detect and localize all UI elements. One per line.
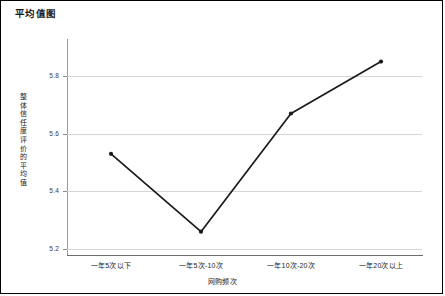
y-tick-label-5-2: 5.2 <box>31 245 59 252</box>
y-tick-mark-5-4 <box>63 191 67 192</box>
x-axis-title: 网购频次 <box>1 276 444 286</box>
x-tick-label-0: 一年5次以下 <box>91 260 131 270</box>
y-tick-label-5-8: 5.8 <box>31 72 59 79</box>
gridline-5-6 <box>67 134 422 135</box>
x-tick-label-2: 一年10次-20次 <box>267 260 315 270</box>
y-tick-label-5-4: 5.4 <box>31 187 59 194</box>
y-tick-mark-5-6 <box>63 134 67 135</box>
x-tick-label-1: 一年5次-10次 <box>179 260 223 270</box>
gridline-5-4 <box>67 191 422 192</box>
x-axis-line <box>67 255 423 256</box>
y-axis-title: 整体信任度评价的平均值 <box>17 93 30 188</box>
chart-title: 平均值图 <box>15 6 57 20</box>
plot-area <box>67 41 422 253</box>
y-tick-label-5-6: 5.6 <box>31 130 59 137</box>
gridline-5-2 <box>67 249 422 250</box>
y-tick-mark-5-2 <box>63 249 67 250</box>
gridline-5-8 <box>67 76 422 77</box>
chart-frame: 平均值图 整体信任度评价的平均值 5.8 5.6 5.4 5.2 一年5次以下 … <box>0 0 443 294</box>
y-tick-mark-5-8 <box>63 76 67 77</box>
x-tick-label-3: 一年20次以上 <box>359 260 403 270</box>
